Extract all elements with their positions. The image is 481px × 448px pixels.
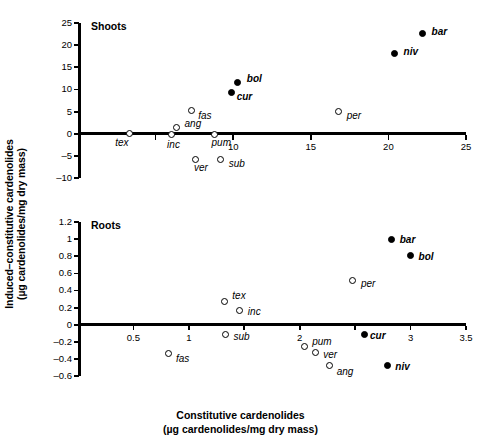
data-point-cur xyxy=(228,89,235,96)
y-tick xyxy=(74,89,79,91)
y-tick-label: 0 xyxy=(26,128,72,139)
x-tick-label: 25 xyxy=(446,141,481,152)
x-tick xyxy=(299,326,301,331)
data-point-bar xyxy=(419,30,426,37)
y-tick-label: 0.2 xyxy=(26,302,72,313)
x-tick xyxy=(155,135,157,140)
x-tick xyxy=(243,326,245,331)
data-point-label-bar: bar xyxy=(400,234,416,245)
data-point-label-ver: ver xyxy=(194,162,208,173)
y-tick xyxy=(74,307,79,309)
data-point-ver xyxy=(312,349,319,356)
y-tick-label: –10 xyxy=(26,172,72,183)
y-axis-title-line1: Induced–constitutive cardenolides xyxy=(3,139,16,308)
data-point-label-cur: cur xyxy=(237,91,253,102)
y-tick xyxy=(74,133,79,135)
data-point-label-bol: bol xyxy=(419,251,434,262)
y-tick xyxy=(74,111,79,113)
y-tick-label: 25 xyxy=(26,17,72,28)
y-tick-label: 1 xyxy=(26,233,72,244)
x-axis-title-line2: (µg cardenolides/mg dry mass) xyxy=(0,422,481,436)
data-point-label-inc: inc xyxy=(167,139,180,150)
y-tick-label: –0.4 xyxy=(26,353,72,364)
data-point-label-fas: fas xyxy=(198,110,211,121)
panel-title: Shoots xyxy=(91,20,127,32)
y-tick xyxy=(74,44,79,46)
data-point-inc xyxy=(236,307,243,314)
data-point-bol xyxy=(407,252,414,259)
x-tick-label: 3.5 xyxy=(446,332,481,343)
x-axis-title-line1: Constitutive cardenolides xyxy=(0,408,481,422)
y-tick-label: 10 xyxy=(26,83,72,94)
data-point-label-cur: cur xyxy=(370,330,386,341)
data-point-label-per: per xyxy=(361,278,375,289)
data-point-label-per: per xyxy=(347,110,361,121)
data-point-pum xyxy=(301,343,308,350)
y-tick-label: 1.2 xyxy=(26,216,72,227)
data-point-inc xyxy=(168,131,175,138)
x-axis-line xyxy=(78,323,466,326)
data-point-label-niv: niv xyxy=(404,46,418,57)
y-tick xyxy=(74,341,79,343)
y-tick xyxy=(74,238,79,240)
x-tick xyxy=(354,326,356,331)
x-tick xyxy=(388,135,390,140)
y-tick xyxy=(74,22,79,24)
panel-title: Roots xyxy=(91,219,121,231)
data-point-label-inc: inc xyxy=(248,306,261,317)
y-tick-label: –5 xyxy=(26,150,72,161)
data-point-sub xyxy=(222,331,229,338)
data-point-bar xyxy=(388,236,395,243)
y-tick xyxy=(74,255,79,257)
data-point-label-sub: sub xyxy=(229,158,245,169)
data-point-label-bar: bar xyxy=(432,26,448,37)
data-point-niv xyxy=(391,50,398,57)
y-tick-label: 20 xyxy=(26,39,72,50)
y-tick xyxy=(74,66,79,68)
x-tick-label: 0.5 xyxy=(113,332,153,343)
data-point-niv xyxy=(384,362,391,369)
y-tick xyxy=(74,375,79,377)
y-tick xyxy=(74,290,79,292)
y-tick-label: 15 xyxy=(26,61,72,72)
x-tick xyxy=(465,326,467,331)
x-axis-line xyxy=(78,132,466,135)
y-tick xyxy=(74,324,79,326)
data-point-tex xyxy=(221,298,228,305)
figure-scatter-cardenolides: Induced–constitutive cardenolides (µg ca… xyxy=(0,0,481,448)
x-tick xyxy=(310,135,312,140)
data-point-label-tex: tex xyxy=(115,137,128,148)
x-tick-label: 20 xyxy=(368,141,408,152)
y-axis-line xyxy=(78,222,81,376)
data-point-label-ver: ver xyxy=(323,349,337,360)
y-tick-label: 0.6 xyxy=(26,267,72,278)
data-point-per xyxy=(335,108,342,115)
y-tick-label: –0.2 xyxy=(26,336,72,347)
y-tick xyxy=(74,155,79,157)
x-axis-title: Constitutive cardenolides (µg cardenolid… xyxy=(0,408,481,436)
data-point-label-pum: pum xyxy=(312,336,331,347)
x-tick-label: 3 xyxy=(391,332,431,343)
data-point-ang xyxy=(326,362,333,369)
y-tick-label: 5 xyxy=(26,106,72,117)
x-tick-label: 15 xyxy=(291,141,331,152)
y-tick xyxy=(74,358,79,360)
y-tick-label: 0.8 xyxy=(26,250,72,261)
y-tick xyxy=(74,177,79,179)
data-point-ang xyxy=(173,124,180,131)
data-point-bol xyxy=(234,79,241,86)
data-point-label-fas: fas xyxy=(176,353,189,364)
data-point-label-tex: tex xyxy=(232,290,245,301)
data-point-sub xyxy=(217,156,224,163)
data-point-cur xyxy=(361,331,368,338)
x-tick xyxy=(232,135,234,140)
data-point-per xyxy=(349,277,356,284)
data-point-label-niv: niv xyxy=(395,361,409,372)
y-tick xyxy=(74,221,79,223)
data-point-label-pum: pum xyxy=(212,137,231,148)
y-tick-label: 0 xyxy=(26,319,72,330)
data-point-label-sub: sub xyxy=(233,331,249,342)
x-tick-label: 1 xyxy=(169,332,209,343)
data-point-label-ang: ang xyxy=(337,366,354,377)
data-point-fas xyxy=(165,350,172,357)
